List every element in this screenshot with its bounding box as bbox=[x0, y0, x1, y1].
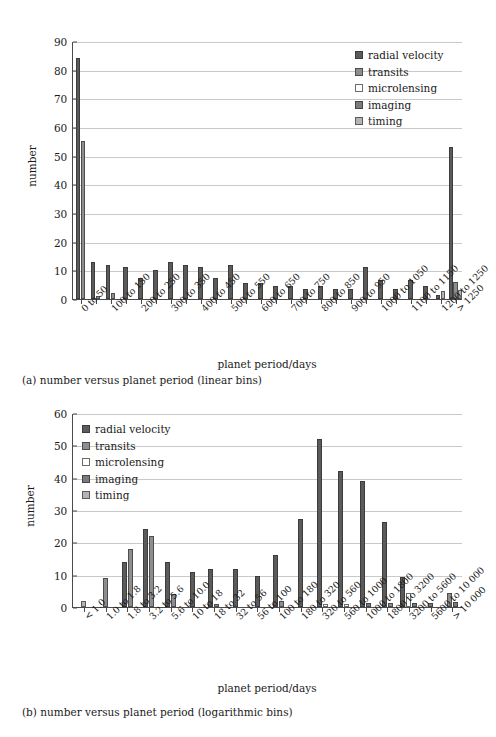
y-tick-label: 30 bbox=[27, 208, 67, 220]
bar-transits bbox=[81, 141, 85, 299]
legend-item-transits: transits bbox=[82, 439, 171, 453]
y-tick-label: 30 bbox=[27, 505, 67, 517]
y-tick-label: 10 bbox=[27, 570, 67, 582]
gridline bbox=[73, 214, 462, 215]
legend-label-transits: transits bbox=[95, 440, 136, 452]
legend-item-transits: transits bbox=[355, 65, 444, 79]
legend-swatch-icon-timing bbox=[82, 491, 90, 499]
y-tick-label: 60 bbox=[27, 122, 67, 134]
gridline bbox=[73, 185, 462, 186]
y-tick-mark bbox=[73, 511, 77, 512]
legend-item-timing: timing bbox=[355, 114, 444, 128]
legend-item-imaging: imaging bbox=[82, 472, 171, 486]
legend-linear: radial velocitytransitsmicrolensingimagi… bbox=[355, 48, 444, 131]
legend-swatch-icon-microlensing bbox=[82, 458, 90, 466]
y-tick-mark bbox=[73, 608, 77, 609]
legend-swatch-icon-microlensing bbox=[355, 84, 363, 92]
bar-timing bbox=[441, 291, 445, 299]
legend-swatch-icon-radial_velocity bbox=[82, 425, 90, 433]
chart-linear-bins: number planet period/days radial velocit… bbox=[0, 0, 496, 390]
legend-label-timing: timing bbox=[95, 489, 129, 501]
y-tick-label: 50 bbox=[27, 440, 67, 452]
y-tick-mark bbox=[73, 478, 77, 479]
gridline bbox=[73, 271, 462, 272]
gridline bbox=[73, 414, 462, 415]
bar-radial_velocity bbox=[76, 58, 80, 299]
y-tick-mark bbox=[73, 543, 77, 544]
legend-swatch-icon-radial_velocity bbox=[355, 51, 363, 59]
y-tick-label: 40 bbox=[27, 179, 67, 191]
caption-a: (a) number versus planet period (linear … bbox=[22, 374, 262, 386]
legend-swatch-icon-transits bbox=[82, 442, 90, 450]
gridline bbox=[73, 157, 462, 158]
y-tick-mark bbox=[73, 446, 77, 447]
legend-swatch-icon-imaging bbox=[82, 475, 90, 483]
legend-swatch-icon-timing bbox=[355, 117, 363, 125]
legend-label-imaging: imaging bbox=[95, 473, 138, 485]
y-tick-label: 0 bbox=[27, 602, 67, 614]
gridline bbox=[73, 243, 462, 244]
y-tick-label: 70 bbox=[27, 93, 67, 105]
legend-label-radial_velocity: radial velocity bbox=[95, 423, 171, 435]
y-tick-label: 60 bbox=[27, 408, 67, 420]
legend-item-microlensing: microlensing bbox=[82, 455, 171, 469]
legend-swatch-icon-imaging bbox=[355, 101, 363, 109]
legend-label-radial_velocity: radial velocity bbox=[368, 49, 444, 61]
legend-log: radial velocitytransitsmicrolensingimagi… bbox=[82, 422, 171, 505]
bar-transits bbox=[111, 293, 115, 299]
caption-b: (b) number versus planet period (logarit… bbox=[22, 706, 293, 718]
legend-item-radial_velocity: radial velocity bbox=[355, 48, 444, 62]
y-tick-label: 50 bbox=[27, 151, 67, 163]
x-axis-title-linear: planet period/days bbox=[72, 358, 462, 370]
legend-swatch-icon-transits bbox=[355, 68, 363, 76]
y-tick-label: 80 bbox=[27, 65, 67, 77]
bar-radial_velocity bbox=[436, 295, 440, 299]
gridline bbox=[73, 511, 462, 512]
legend-label-timing: timing bbox=[368, 115, 402, 127]
y-tick-label: 0 bbox=[27, 294, 67, 306]
legend-label-transits: transits bbox=[368, 66, 409, 78]
y-tick-label: 20 bbox=[27, 537, 67, 549]
legend-label-imaging: imaging bbox=[368, 99, 411, 111]
legend-item-imaging: imaging bbox=[355, 98, 444, 112]
bar-timing bbox=[81, 601, 86, 607]
x-axis-title-log: planet period/days bbox=[72, 682, 462, 694]
legend-item-microlensing: microlensing bbox=[355, 81, 444, 95]
legend-item-radial_velocity: radial velocity bbox=[82, 422, 171, 436]
y-tick-label: 40 bbox=[27, 473, 67, 485]
legend-item-timing: timing bbox=[82, 488, 171, 502]
figure-page: number planet period/days radial velocit… bbox=[0, 0, 496, 737]
bar-radial_velocity bbox=[317, 439, 322, 607]
y-tick-mark bbox=[73, 414, 77, 415]
chart-log-bins: number planet period/days radial velocit… bbox=[0, 392, 496, 737]
legend-label-microlensing: microlensing bbox=[368, 82, 437, 94]
y-tick-label: 90 bbox=[27, 36, 67, 48]
y-tick-mark bbox=[73, 300, 77, 301]
y-tick-mark bbox=[73, 42, 77, 43]
legend-label-microlensing: microlensing bbox=[95, 456, 164, 468]
y-tick-label: 20 bbox=[27, 237, 67, 249]
gridline bbox=[73, 543, 462, 544]
y-tick-label: 10 bbox=[27, 265, 67, 277]
y-tick-mark bbox=[73, 575, 77, 576]
gridline bbox=[73, 42, 462, 43]
